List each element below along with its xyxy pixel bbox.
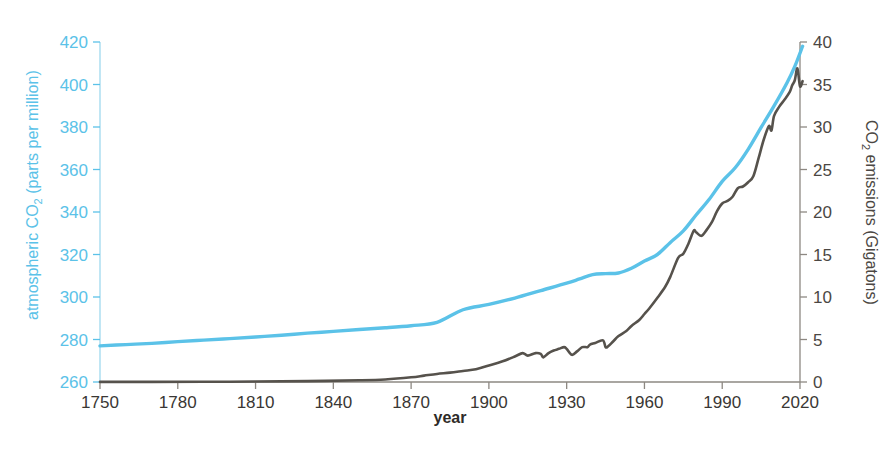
left-tick-label-400: 400 [60,76,88,95]
x-tick-label-1810: 1810 [237,393,275,412]
right-tick-label-30: 30 [813,118,832,137]
right-tick-label-5: 5 [813,331,822,350]
left-tick-label-280: 280 [60,331,88,350]
right-tick-label-15: 15 [813,246,832,265]
x-tick-label-2020: 2020 [781,393,819,412]
right-tick-label-40: 40 [813,33,832,52]
x-axis-title-text: year [434,409,467,426]
left-tick-label-320: 320 [60,246,88,265]
x-tick-label-1750: 1750 [81,393,119,412]
chart-svg-canvas: 260280300320340360380400420 051015202530… [0,0,895,453]
x-tick-label-1900: 1900 [470,393,508,412]
left-tick-label-420: 420 [60,33,88,52]
x-tick-label-1870: 1870 [392,393,430,412]
left-tick-label-260: 260 [60,373,88,392]
x-tick-label-1930: 1930 [548,393,586,412]
x-tick-label-1990: 1990 [703,393,741,412]
left-tick-label-380: 380 [60,118,88,137]
right-tick-label-10: 10 [813,288,832,307]
right-tick-label-20: 20 [813,203,832,222]
x-tick-label-1960: 1960 [626,393,664,412]
left-axis-tick-labels: 260280300320340360380400420 [60,33,88,392]
right-tick-label-25: 25 [813,161,832,180]
left-tick-label-340: 340 [60,203,88,222]
co2-chart-figure: 260280300320340360380400420 051015202530… [0,0,895,453]
left-tick-label-360: 360 [60,161,88,180]
left-tick-label-300: 300 [60,288,88,307]
x-tick-label-1780: 1780 [159,393,197,412]
right-tick-label-0: 0 [813,373,822,392]
right-tick-label-35: 35 [813,76,832,95]
x-tick-label-1840: 1840 [314,393,352,412]
chart-background [0,0,895,453]
